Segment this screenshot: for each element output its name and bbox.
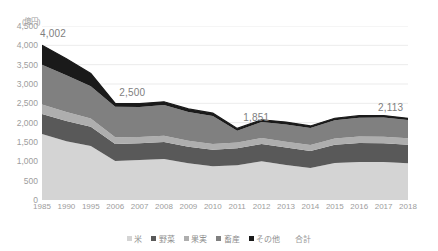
- legend-swatch-icon: [127, 236, 132, 241]
- x-axis-tick-label: 1985: [33, 202, 51, 211]
- x-axis-tick-label: 2010: [204, 202, 222, 211]
- stacked-area-chart: (億円) 4,5004,0003,5003,0002,5002,0001,500…: [0, 0, 438, 251]
- legend-item-label: その他: [256, 233, 280, 244]
- legend-swatch-icon: [216, 236, 221, 241]
- x-axis-tick-label: 2018: [399, 202, 417, 211]
- y-axis-tick-label: 4,000: [2, 40, 38, 50]
- y-axis-tick-label: 2,000: [2, 118, 38, 128]
- x-axis-tick-label: 2006: [106, 202, 124, 211]
- y-axis: 4,5004,0003,5003,0002,5002,0001,5001,000…: [0, 0, 38, 251]
- data-label: 2,113: [378, 102, 403, 113]
- x-axis-tick-label: 2009: [179, 202, 197, 211]
- data-label: 4,002: [40, 28, 66, 39]
- legend-item[interactable]: その他: [249, 233, 281, 244]
- y-axis-tick-label: 3,000: [2, 79, 38, 89]
- plot-svg: [42, 26, 408, 200]
- legend-item-label: 果実: [191, 233, 207, 244]
- legend-item-label: 米: [134, 233, 142, 244]
- x-axis-tick-label: 2012: [253, 202, 271, 211]
- y-axis-tick-label: 500: [2, 176, 38, 186]
- legend-item-label: 畜産: [224, 233, 240, 244]
- data-label: 1,851: [243, 112, 269, 123]
- legend-swatch-icon: [151, 236, 156, 241]
- legend-item[interactable]: 畜産: [216, 233, 240, 244]
- legend-item[interactable]: 果実: [184, 233, 208, 244]
- legend-item[interactable]: 野菜: [151, 233, 175, 244]
- plot-area: [42, 26, 408, 200]
- legend-swatch-icon: [184, 236, 189, 241]
- x-axis-tick-label: 2011: [229, 202, 246, 211]
- y-axis-tick-label: 3,500: [2, 60, 38, 70]
- y-axis-tick-label: 2,500: [2, 98, 38, 108]
- x-axis-tick-label: 2013: [277, 202, 295, 211]
- x-axis-tick-label: 1995: [82, 202, 100, 211]
- x-axis-tick-label: 2007: [131, 202, 149, 211]
- legend-swatch-icon: [249, 236, 254, 241]
- legend-item-total-label[interactable]: 合計: [295, 233, 311, 244]
- x-axis-tick-label: 2015: [326, 202, 344, 211]
- x-axis: 1985199019952006200720082009201020112012…: [42, 202, 408, 218]
- x-axis-tick-label: 2017: [375, 202, 393, 211]
- y-axis-tick-label: 1,000: [2, 156, 38, 166]
- y-axis-tick-label: 1,500: [2, 137, 38, 147]
- y-axis-tick-label: 4,500: [2, 21, 38, 31]
- legend-item[interactable]: 米: [127, 233, 143, 244]
- chart-legend: 米野菜果実畜産その他合計: [0, 230, 438, 246]
- data-label: 2,500: [119, 87, 145, 98]
- x-axis-tick-label: 1990: [57, 202, 75, 211]
- legend-item-label: 野菜: [159, 233, 175, 244]
- x-axis-tick-label: 2014: [301, 202, 319, 211]
- x-axis-tick-label: 2016: [350, 202, 368, 211]
- x-axis-tick-label: 2008: [155, 202, 173, 211]
